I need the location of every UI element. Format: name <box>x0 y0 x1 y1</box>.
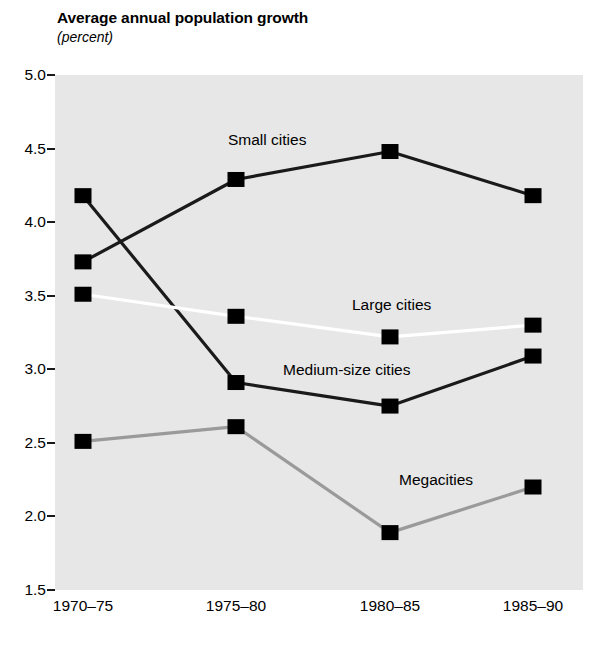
series-label-small-cities: Small cities <box>228 131 306 149</box>
series-data-point-marker <box>525 480 542 495</box>
plot-svg <box>55 75 583 590</box>
x-axis-tick-label: 1975–80 <box>206 596 266 616</box>
series-data-point-marker <box>228 309 245 324</box>
series-data-point-marker <box>228 419 245 434</box>
y-axis-tick-mark <box>47 589 55 591</box>
series-data-point-marker <box>525 188 542 203</box>
x-axis-tick-label: 1970–75 <box>53 596 113 616</box>
series-data-point-marker <box>382 329 399 344</box>
series-data-point-marker <box>75 188 92 203</box>
x-axis-tick-label: 1980–85 <box>360 596 420 616</box>
y-axis-tick-label: 5.0 <box>6 67 46 82</box>
population-growth-chart-figure: Average annual population growth (percen… <box>0 0 595 647</box>
y-axis-tick-mark <box>47 74 55 76</box>
series-data-point-marker <box>228 375 245 390</box>
y-axis-tick-mark <box>47 221 55 223</box>
series-line <box>83 152 533 262</box>
series-data-point-marker <box>382 399 399 414</box>
series-label-large-cities: Large cities <box>352 296 431 314</box>
series-data-point-marker <box>382 525 399 540</box>
y-axis-tick-mark <box>47 442 55 444</box>
chart-subtitle-units: (percent) <box>57 28 577 47</box>
series-data-point-marker <box>228 172 245 187</box>
y-axis-tick-label: 2.5 <box>6 435 46 450</box>
series-data-point-marker <box>75 287 92 302</box>
y-axis-tick-mark <box>47 515 55 517</box>
series-data-point-marker <box>382 144 399 159</box>
y-axis-tick-label: 1.5 <box>6 582 46 597</box>
y-axis-tick-mark <box>47 368 55 370</box>
chart-title: Average annual population growth <box>57 8 577 28</box>
y-axis-tick-label: 4.5 <box>6 141 46 156</box>
series-data-point-marker <box>75 254 92 269</box>
y-axis-tick-label: 3.5 <box>6 288 46 303</box>
chart-title-block: Average annual population growth (percen… <box>57 8 577 47</box>
y-axis-tick-label: 2.0 <box>6 508 46 523</box>
series-data-point-marker <box>525 349 542 364</box>
series-data-point-marker <box>525 318 542 333</box>
plot-area <box>55 75 583 590</box>
series-data-point-marker <box>75 434 92 449</box>
y-axis-labels: 5.04.54.03.53.02.52.01.5 <box>0 75 46 590</box>
y-axis-tick-label: 3.0 <box>6 361 46 376</box>
y-axis-tick-mark <box>47 295 55 297</box>
y-axis-tick-mark <box>47 148 55 150</box>
x-axis-labels: 1970–751975–801980–851985–90 <box>55 596 583 626</box>
series-line <box>83 294 533 337</box>
series-label-megacities: Megacities <box>399 471 473 489</box>
series-label-medium-size-cities: Medium-size cities <box>283 361 410 379</box>
y-axis-tick-label: 4.0 <box>6 214 46 229</box>
x-axis-tick-label: 1985–90 <box>503 596 563 616</box>
